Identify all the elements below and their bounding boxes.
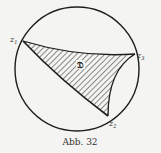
figure: 𝔇 z1 z3 z2 Abb. 32 (0, 0, 161, 153)
figure-caption: Abb. 32 (61, 137, 97, 147)
region-label: 𝔇 (77, 60, 84, 70)
vertex-label-z3-sub: 3 (141, 55, 144, 61)
vertex-label-z2-sub: 2 (112, 123, 116, 129)
vertex-label-z1: z1 (9, 35, 17, 45)
vertex-label-z3: z3 (136, 51, 144, 61)
vertex-label-z1-sub: 1 (14, 39, 17, 45)
vertex-label-z2: z2 (108, 119, 116, 129)
